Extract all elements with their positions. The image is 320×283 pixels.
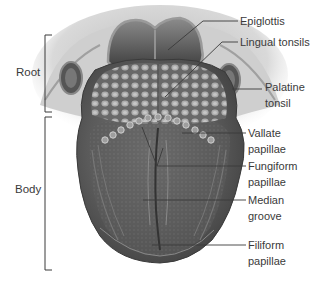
- region-label-body: Body: [15, 183, 41, 195]
- label-epiglottis: Epiglottis: [240, 13, 285, 29]
- label-filiform-papillae: Filiform papillae: [248, 237, 286, 269]
- tongue-anatomy-diagram: Root Body Epiglottis Lingual tonsils Pal…: [0, 0, 320, 283]
- label-fungiform-papillae: Fungiform papillae: [248, 158, 298, 190]
- label-median-groove: Median groove: [248, 192, 284, 224]
- region-label-root: Root: [16, 66, 40, 78]
- body-bracket: [45, 117, 52, 270]
- label-lingual-tonsils: Lingual tonsils: [240, 34, 310, 50]
- label-vallate-papillae: Vallate papillae: [248, 125, 286, 157]
- label-palatine-tonsil: Palatine tonsil: [265, 79, 305, 111]
- tongue: [77, 59, 245, 263]
